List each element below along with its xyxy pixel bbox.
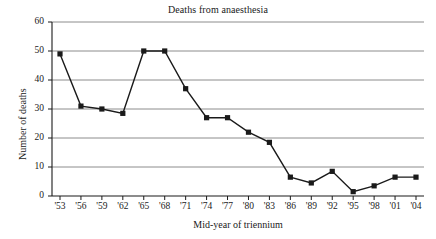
data-point-marker xyxy=(120,111,125,116)
data-point-marker xyxy=(267,140,272,145)
data-point-marker xyxy=(372,183,377,188)
data-point-marker xyxy=(78,104,83,109)
data-point-marker xyxy=(99,106,104,111)
y-tick-label: 10 xyxy=(22,161,44,171)
data-point-marker xyxy=(204,115,209,120)
y-tick-label: 50 xyxy=(22,45,44,55)
data-point-marker xyxy=(330,169,335,174)
data-point-marker xyxy=(225,115,230,120)
data-point-marker xyxy=(162,48,167,53)
y-tick-label: 30 xyxy=(22,103,44,113)
y-tick-label: 20 xyxy=(22,132,44,142)
y-tick-label: 40 xyxy=(22,74,44,84)
data-point-marker xyxy=(351,189,356,194)
data-point-marker xyxy=(413,175,418,180)
data-point-marker xyxy=(246,130,251,135)
data-point-marker xyxy=(309,180,314,185)
data-point-marker xyxy=(392,175,397,180)
data-point-marker xyxy=(288,175,293,180)
data-point-marker xyxy=(57,51,62,56)
y-tick-label: 0 xyxy=(22,190,44,200)
y-tick-label: 60 xyxy=(22,16,44,26)
data-line xyxy=(60,51,416,192)
x-tick-label: '04 xyxy=(403,201,429,211)
chart-container: Deaths from anaesthesia Number of deaths… xyxy=(0,0,436,239)
data-point-marker xyxy=(183,86,188,91)
data-point-marker xyxy=(141,48,146,53)
